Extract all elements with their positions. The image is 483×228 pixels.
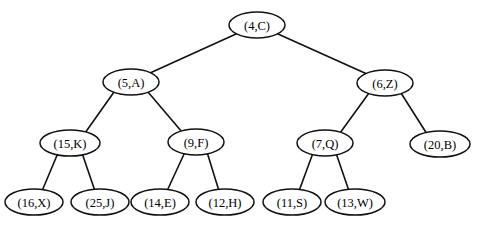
tree-node[interactable]: (11,S) (263, 189, 321, 215)
tree-node-label: (9,F) (184, 136, 209, 150)
tree-canvas: (4,C)(5,A)(6,Z)(15,K)(9,F)(7,Q)(20,B)(16… (0, 0, 483, 228)
tree-node[interactable]: (9,F) (168, 129, 224, 155)
tree-node-label: (13,W) (337, 196, 373, 210)
tree-node-label: (6,Z) (372, 77, 397, 91)
tree-edge (42, 153, 58, 191)
tree-node[interactable]: (20,B) (410, 131, 470, 157)
tree-node-label: (4,C) (244, 19, 270, 33)
tree-node[interactable]: (7,Q) (297, 130, 353, 156)
tree-node[interactable]: (6,Z) (357, 70, 413, 96)
tree-node-label: (25,J) (86, 196, 115, 210)
tree-edge (150, 34, 236, 73)
binary-tree-diagram: (4,C)(5,A)(6,Z)(15,K)(9,F)(7,Q)(20,B)(16… (0, 0, 483, 228)
tree-node[interactable]: (13,W) (325, 189, 385, 215)
tree-node-label: (12,H) (209, 196, 242, 210)
tree-edge (82, 153, 95, 191)
tree-edge (167, 152, 185, 191)
tree-edge (336, 153, 349, 191)
tree-node-label: (14,E) (144, 196, 176, 210)
tree-node-label: (20,B) (424, 138, 456, 152)
tree-node[interactable]: (5,A) (103, 69, 159, 95)
tree-node-label: (5,A) (118, 76, 145, 90)
tree-edges-group (42, 34, 427, 191)
tree-edge (278, 34, 367, 74)
tree-node[interactable]: (25,J) (71, 189, 129, 215)
tree-node[interactable]: (15,K) (40, 130, 100, 156)
tree-node[interactable]: (12,H) (196, 189, 254, 215)
tree-edge (340, 93, 369, 133)
tree-node-label: (15,K) (54, 137, 87, 151)
tree-edge (85, 92, 114, 133)
tree-edge (299, 153, 313, 191)
tree-node-label: (11,S) (277, 196, 307, 210)
tree-edge (207, 152, 219, 191)
tree-node[interactable]: (16,X) (5, 189, 63, 215)
tree-node-label: (16,X) (18, 196, 51, 210)
tree-node[interactable]: (14,E) (131, 189, 189, 215)
tree-node-label: (7,Q) (312, 137, 339, 151)
tree-edge (401, 93, 427, 134)
tree-node[interactable]: (4,C) (229, 12, 285, 38)
tree-nodes-group: (4,C)(5,A)(6,Z)(15,K)(9,F)(7,Q)(20,B)(16… (5, 12, 470, 215)
tree-edge (148, 92, 182, 132)
